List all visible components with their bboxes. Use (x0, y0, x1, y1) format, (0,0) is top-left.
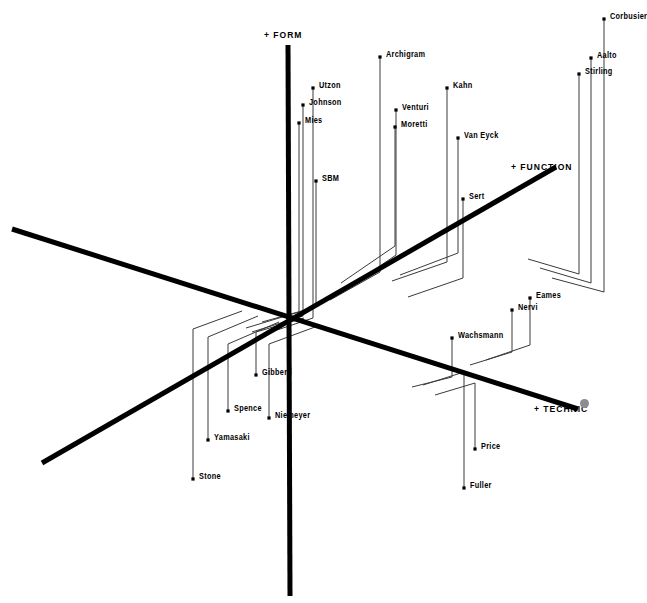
point-marker-eames[interactable] (528, 296, 531, 299)
point-marker-nervi[interactable] (510, 308, 513, 311)
point-label-venturi: Venturi (402, 103, 429, 112)
point-label-stone: Stone (199, 472, 221, 481)
point-label-utzon: Utzon (319, 81, 341, 90)
point-marker-yamasaki[interactable] (206, 438, 209, 441)
point-marker-sert[interactable] (461, 197, 464, 200)
connector-line-sert (408, 278, 463, 297)
point-label-niemeyer: Niemeyer (275, 411, 310, 420)
point-marker-niemeyer[interactable] (267, 416, 270, 419)
point-label-price: Price (481, 442, 500, 451)
point-marker-price[interactable] (473, 447, 476, 450)
point-marker-moretti[interactable] (393, 125, 396, 128)
point-marker-johnson[interactable] (301, 103, 304, 106)
leader-lines-group (193, 19, 604, 488)
point-label-moretti: Moretti (401, 120, 427, 129)
point-marker-spence[interactable] (226, 409, 229, 412)
point-marker-wachsmann[interactable] (450, 336, 453, 339)
point-marker-fuller[interactable] (462, 486, 465, 489)
axis-label-function: + FUNCTION (511, 161, 572, 172)
point-label-wachsmann: Wachsmann (458, 331, 503, 340)
axis-line-technic (12, 229, 578, 409)
point-label-gibberd: Gibberd (262, 368, 292, 377)
point-marker-venturi[interactable] (394, 108, 397, 111)
point-label-eames: Eames (536, 291, 561, 300)
connector-lines-group (193, 246, 604, 395)
point-marker-archigram[interactable] (378, 55, 381, 58)
axis-label-form: + FORM (264, 29, 302, 40)
point-label-nervi: Nervi (518, 303, 538, 312)
point-label-aalto: Aalto (597, 51, 617, 60)
point-label-corbusier: Corbusier (610, 12, 647, 21)
point-marker-stone[interactable] (191, 477, 194, 480)
axis-lines-group (12, 45, 578, 596)
connector-line-kahn (392, 262, 447, 281)
point-label-yamasaki: Yamasaki (214, 433, 250, 442)
connector-line-fuller (423, 372, 464, 385)
point-label-mies: Mies (305, 116, 322, 125)
point-marker-mies[interactable] (297, 121, 300, 124)
point-label-van-eyck: Van Eyck (464, 131, 499, 140)
connector-line-van-eyck (400, 253, 458, 275)
point-label-johnson: Johnson (309, 98, 342, 107)
point-label-sbm: SBM (322, 174, 339, 183)
point-label-kahn: Kahn (453, 81, 472, 90)
connector-line-price (435, 383, 475, 395)
connector-line-nervi (470, 352, 512, 365)
point-label-stirling: Stirling (585, 67, 613, 76)
point-marker-kahn[interactable] (445, 86, 448, 89)
data-point-markers-group (191, 17, 605, 489)
point-marker-stirling[interactable] (577, 72, 580, 75)
point-marker-gibberd[interactable] (254, 373, 257, 376)
point-marker-sbm[interactable] (314, 179, 317, 182)
point-label-spence: Spence (234, 404, 262, 413)
point-marker-corbusier[interactable] (602, 17, 605, 20)
point-marker-van-eyck[interactable] (456, 136, 459, 139)
point-marker-utzon[interactable] (311, 86, 314, 89)
point-marker-aalto[interactable] (589, 56, 592, 59)
point-label-fuller: Fuller (470, 481, 492, 490)
connector-line-archigram (330, 272, 380, 300)
point-label-archigram: Archigram (386, 50, 425, 59)
pointer-dot-icon (580, 399, 589, 408)
point-label-sert: Sert (469, 192, 484, 201)
